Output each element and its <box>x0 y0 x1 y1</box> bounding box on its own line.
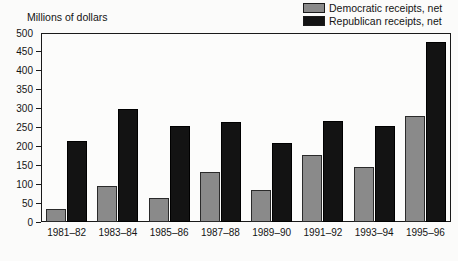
x-axis-tick-label: 1987–88 <box>195 227 246 238</box>
bar-democratic[interactable] <box>46 209 66 222</box>
bar-group <box>405 33 446 222</box>
legend-label-republican: Republican receipts, net <box>329 16 442 27</box>
y-axis-tick: 300 <box>16 103 41 114</box>
y-axis-tick-label: 250 <box>16 122 33 133</box>
y-axis-tick-label: 400 <box>16 65 33 76</box>
bar-group <box>302 33 343 222</box>
legend-swatch-republican-icon <box>303 16 325 26</box>
chart-legend: Democratic receipts, net Republican rece… <box>303 2 442 27</box>
y-axis-tick: 450 <box>16 46 41 57</box>
y-axis-tick: 100 <box>16 179 41 190</box>
bar-chart: Democratic receipts, net Republican rece… <box>0 0 458 261</box>
bar-democratic[interactable] <box>405 116 425 222</box>
y-axis-tick: 150 <box>16 160 41 171</box>
bar-group <box>354 33 395 222</box>
y-axis-tick-label: 150 <box>16 160 33 171</box>
bar-republican[interactable] <box>375 126 395 222</box>
bar-group <box>251 33 292 222</box>
y-axis-tick: 200 <box>16 141 41 152</box>
bar-republican[interactable] <box>221 122 241 222</box>
y-axis: 050100150200250300350400450500 <box>0 28 41 227</box>
bar-republican[interactable] <box>118 109 138 222</box>
x-axis-tick-label: 1991–92 <box>297 227 348 238</box>
y-axis-tick: 50 <box>22 198 41 209</box>
bar-group <box>97 33 138 222</box>
y-axis-tick-label: 350 <box>16 84 33 95</box>
y-axis-tick: 500 <box>16 28 41 39</box>
bar-republican[interactable] <box>170 126 190 222</box>
legend-swatch-democratic-icon <box>303 3 325 13</box>
y-axis-title: Millions of dollars <box>27 11 108 23</box>
bar-republican[interactable] <box>426 42 446 222</box>
y-axis-tick-label: 100 <box>16 179 33 190</box>
bar-democratic[interactable] <box>251 190 271 222</box>
y-axis-tick-label: 300 <box>16 103 33 114</box>
y-axis-tick: 350 <box>16 84 41 95</box>
y-axis-tick-label: 0 <box>27 217 33 228</box>
x-axis-tick-label: 1995–96 <box>400 227 451 238</box>
legend-item-republican[interactable]: Republican receipts, net <box>303 15 442 27</box>
y-axis-tick: 400 <box>16 65 41 76</box>
y-axis-tick: 250 <box>16 122 41 133</box>
x-axis-tick-label: 1981–82 <box>41 227 92 238</box>
bar-republican[interactable] <box>67 141 87 222</box>
y-axis-tick-label: 450 <box>16 46 33 57</box>
bar-group <box>200 33 241 222</box>
bar-democratic[interactable] <box>354 167 374 222</box>
y-axis-tick-label: 500 <box>16 28 33 39</box>
bar-republican[interactable] <box>323 121 343 222</box>
y-axis-tick: 0 <box>27 217 41 228</box>
bar-democratic[interactable] <box>200 172 220 222</box>
x-axis-tick-label: 1989–90 <box>246 227 297 238</box>
x-axis-tick-label: 1985–86 <box>144 227 195 238</box>
bar-democratic[interactable] <box>97 186 117 222</box>
x-axis-tick-label: 1983–84 <box>92 227 143 238</box>
x-axis-tick-label: 1993–94 <box>349 227 400 238</box>
bar-group <box>46 33 87 222</box>
legend-item-democratic[interactable]: Democratic receipts, net <box>303 2 442 14</box>
bar-republican[interactable] <box>272 143 292 222</box>
bars-layer <box>41 33 451 222</box>
bar-democratic[interactable] <box>302 155 322 222</box>
x-axis: 1981–821983–841985–861987–881989–901991–… <box>41 227 451 243</box>
bar-democratic[interactable] <box>149 198 169 222</box>
legend-label-democratic: Democratic receipts, net <box>329 3 442 14</box>
y-axis-tick-label: 50 <box>22 198 33 209</box>
y-axis-tick-label: 200 <box>16 141 33 152</box>
bar-group <box>149 33 190 222</box>
